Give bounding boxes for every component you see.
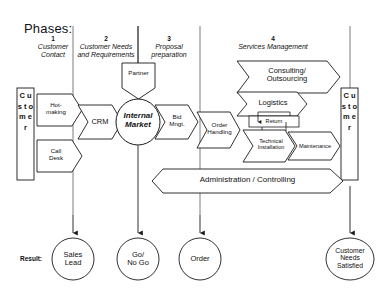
- hot-making-shape: [37, 94, 82, 126]
- call-desk-shape: [37, 140, 82, 172]
- result-circle-order: [179, 238, 221, 280]
- return-box: [249, 116, 299, 127]
- left-customer-box: [17, 88, 34, 180]
- maintenance-shape: [288, 132, 340, 160]
- diagram-canvas: [0, 0, 387, 290]
- internal-market-ellipse: [116, 99, 160, 145]
- result-circle-sales-lead: [52, 238, 94, 280]
- administration-controlling-shape: [152, 169, 343, 193]
- bid-mngt-shape: [155, 105, 198, 139]
- order-handling-shape: [197, 112, 240, 148]
- result-circle-go-no-go: [117, 238, 159, 280]
- right-customer-box: [341, 88, 358, 180]
- process-diagram: Phases: 1 2 3 4 Customer Contact Custome…: [0, 0, 387, 290]
- crm-shape: [78, 105, 122, 139]
- partner-shape: [122, 63, 155, 99]
- consulting-outsourcing-shape: [237, 61, 340, 93]
- technical-installation-shape: [243, 130, 295, 162]
- result-circle-customer-needs-satisfied: [326, 238, 374, 280]
